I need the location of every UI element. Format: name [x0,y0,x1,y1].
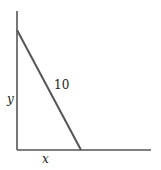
x-label: x [42,152,49,166]
ladder-length-label: 10 [54,78,69,92]
y-label: y [6,92,14,106]
ladder-diagram: 10 y x [0,0,161,170]
ladder-line [17,30,81,150]
